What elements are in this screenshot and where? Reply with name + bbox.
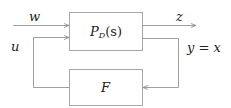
- plant-label-arg: (s): [105, 24, 122, 39]
- controller-block-label: F: [101, 81, 110, 94]
- z-signal-label: z: [176, 10, 183, 23]
- plant-label-main: P: [90, 24, 99, 39]
- y-signal-line: [142, 39, 179, 88]
- y-signal-label: y = x: [187, 41, 221, 54]
- w-signal-label: w: [29, 10, 40, 23]
- u-signal-line: [34, 38, 70, 88]
- block-diagram: w u z y = x PD(s) F: [0, 0, 231, 108]
- plant-block-label: PD(s): [90, 25, 122, 40]
- u-signal-label: u: [11, 40, 19, 53]
